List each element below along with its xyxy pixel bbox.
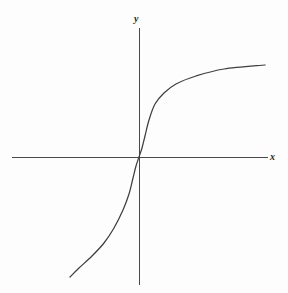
x-axis-label: x <box>270 152 275 162</box>
plot-canvas <box>0 0 288 293</box>
y-axis-label: y <box>134 14 138 24</box>
figure-container: y x <box>0 0 288 293</box>
function-curve <box>70 65 265 277</box>
